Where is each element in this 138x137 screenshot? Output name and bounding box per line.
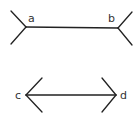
shaft-ab	[26, 27, 118, 28]
fin-a-upper	[11, 11, 26, 27]
label-c: c	[15, 89, 21, 102]
fin-c-lower	[26, 95, 42, 112]
fin-d-upper	[102, 78, 116, 95]
figure-ab: a b	[11, 11, 132, 45]
fin-a-lower	[11, 27, 26, 44]
label-d: d	[120, 89, 127, 102]
fin-c-upper	[26, 78, 42, 95]
fin-b-upper	[118, 12, 132, 28]
muller-lyer-diagram: a b c d	[0, 0, 138, 137]
label-a: a	[28, 12, 35, 25]
label-b: b	[108, 12, 115, 25]
fin-d-lower	[102, 95, 116, 112]
fin-b-lower	[118, 28, 132, 45]
figure-cd: c d	[15, 78, 127, 112]
